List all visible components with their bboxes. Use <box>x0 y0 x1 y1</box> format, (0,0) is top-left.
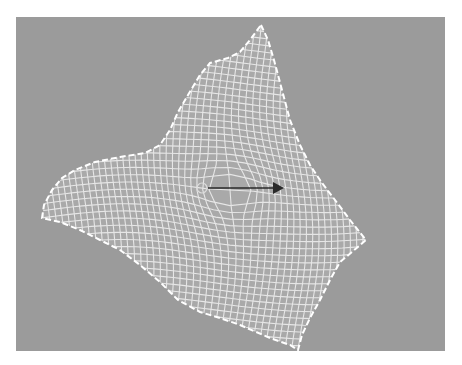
3d-viewport[interactable] <box>16 17 445 351</box>
mesh-scene[interactable] <box>16 17 445 351</box>
wireframe-mesh[interactable] <box>16 17 445 351</box>
